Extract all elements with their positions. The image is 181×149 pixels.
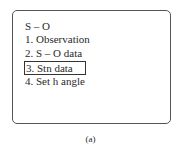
figure-caption: (a)	[0, 134, 181, 144]
menu-item-s-o-data[interactable]: 2. S – O data	[25, 47, 82, 59]
menu-item-observation[interactable]: 1. Observation	[25, 33, 90, 45]
menu-item-set-h-angle[interactable]: 4. Set h angle	[25, 75, 85, 87]
menu-item-stn-data-selected[interactable]: 3. Stn data	[24, 61, 86, 75]
menu-title: S – O	[25, 20, 50, 32]
